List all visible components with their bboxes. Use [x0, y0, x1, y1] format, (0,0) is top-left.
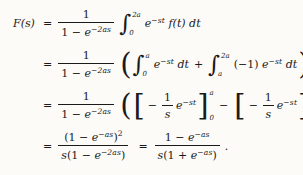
den-exponent: −2as	[91, 66, 111, 75]
equals-sign-5: =	[138, 140, 147, 153]
lower-limit: 0	[129, 29, 141, 37]
fraction-denominator: 1 − e−2as	[58, 104, 114, 121]
equals-sign-2: =	[43, 58, 52, 71]
inner-denominator: s	[162, 105, 173, 121]
den-exponent: −2as	[91, 107, 111, 116]
den-pre: 1 −	[61, 108, 84, 121]
dt: dt	[174, 58, 189, 71]
inner-numerator: 1	[162, 91, 173, 105]
den-exponent: −2as	[91, 25, 111, 34]
num-pre: (1 −	[64, 131, 92, 144]
equation-block: F(s) = 1 1 − e−2as ∫ 2a0 e−st f(t) dt = …	[0, 0, 303, 167]
fraction-numerator: 1	[58, 8, 114, 22]
upper-limit: a	[210, 89, 214, 97]
result-fraction-left: (1 − e−as)2 s(1 − e−2as)	[58, 131, 128, 162]
dt: dt	[282, 58, 297, 71]
den-pre: (1 +	[163, 149, 191, 162]
integral-limits: 2a0	[132, 11, 141, 37]
evaluation-bracket-1: [ − 1 s e−st ] a0	[132, 89, 214, 122]
e-exponent: −st	[283, 98, 297, 107]
inner-denominator: s	[263, 105, 274, 121]
fraction-denominator: s(1 − e−2as)	[58, 145, 128, 162]
minus-sign: −	[249, 99, 258, 112]
e-exponent: −st	[269, 57, 283, 66]
one-over-s-fraction: 1 s	[263, 91, 274, 121]
den-close-paren: )	[212, 149, 216, 162]
left-bracket: [	[133, 91, 144, 120]
den-e-base: e	[94, 149, 101, 162]
den-e-base: e	[84, 26, 91, 39]
open-paren: (	[120, 91, 131, 120]
final-period: .	[225, 140, 229, 153]
fraction-numerator: 1	[58, 49, 114, 63]
den-e-base: e	[84, 67, 91, 80]
e-exponent: −st	[151, 16, 165, 25]
integral-a-to-2a: ∫ 2aa	[208, 52, 232, 78]
fraction-numerator: 1 − e−as	[155, 131, 220, 145]
den-pre: 1 −	[61, 67, 84, 80]
minus-one-factor: (−1)	[234, 58, 262, 71]
equals-sign-4: =	[43, 140, 52, 153]
den-pre: 1 −	[61, 26, 84, 39]
equation-line-4: = (1 − e−as)2 s(1 − e−2as) = 1 − e−as s(…	[13, 126, 303, 167]
e-base: e	[262, 58, 269, 71]
fraction-numerator: (1 − e−as)2	[58, 131, 128, 145]
integrand-term: e−st f(t) dt	[145, 17, 201, 30]
open-paren: (	[120, 50, 131, 79]
exponential-term: e−st	[277, 99, 297, 112]
plus-sign: +	[194, 58, 203, 71]
e-exponent: −st	[160, 57, 174, 66]
result-fraction-right: 1 − e−as s(1 + e−as)	[155, 131, 220, 162]
e-base: e	[176, 99, 183, 112]
integral-0-to-a: ∫ a0	[132, 52, 151, 78]
minus-sign-between-brackets: −	[219, 99, 228, 112]
integrand-tail: f(t) dt	[165, 17, 201, 30]
fraction-numerator: 1	[58, 90, 114, 104]
den-exponent: −as	[197, 148, 212, 157]
fraction-denominator: 1 − e−2as	[58, 22, 114, 39]
inner-numerator: 1	[263, 91, 274, 105]
exponential-term: e−st	[176, 99, 196, 112]
equals-sign-3: =	[43, 99, 52, 112]
equation-line-2: = 1 1 − e−2as ( ∫ a0 e−st dt + ∫ 2aa (−1…	[13, 44, 303, 85]
upper-limit: 2a	[132, 11, 141, 19]
minus-sign: −	[148, 99, 157, 112]
e-exponent: −st	[183, 98, 197, 107]
integral-0-to-2a: ∫ 2a0	[119, 11, 143, 37]
den-pre: (1 −	[67, 149, 95, 162]
equation-line-1: F(s) = 1 1 − e−2as ∫ 2a0 e−st f(t) dt	[13, 3, 303, 44]
lower-limit: 0	[210, 114, 214, 122]
square-power: 2	[118, 129, 123, 138]
right-bracket: ]	[298, 91, 303, 120]
coefficient-fraction-1: 1 1 − e−2as	[58, 8, 114, 39]
coefficient-fraction-3: 1 1 − e−2as	[58, 90, 114, 121]
integrand-term-1: e−st dt	[154, 58, 189, 71]
coefficient-fraction-2: 1 1 − e−2as	[58, 49, 114, 80]
num-exponent: −as	[98, 130, 113, 139]
num-pre: 1 −	[165, 131, 188, 144]
left-bracket: [	[234, 91, 245, 120]
equals-sign-1: =	[43, 17, 52, 30]
one-over-s-fraction: 1 s	[162, 91, 173, 121]
integral-limits: a0	[145, 52, 149, 78]
fraction-denominator: s(1 + e−as)	[155, 145, 220, 162]
evaluation-bracket-2: [ − 1 s e−st ] 2aa	[233, 89, 303, 122]
integral-limits: 2aa	[221, 52, 230, 78]
upper-limit: a	[145, 52, 149, 60]
den-e-base: e	[84, 108, 91, 121]
lower-limit: 0	[142, 70, 149, 78]
integrand-term-2: (−1) e−st dt	[234, 58, 298, 71]
num-exponent: −as	[194, 130, 209, 139]
close-paren: )	[298, 50, 303, 79]
equation-line-3: = 1 1 − e−2as ( [ − 1 s e−st ] a0 − [ − …	[13, 85, 303, 126]
fraction-denominator: 1 − e−2as	[58, 63, 114, 80]
den-close-paren: )	[121, 149, 125, 162]
function-lhs: F(s)	[13, 17, 43, 30]
den-exponent: −2as	[101, 148, 121, 157]
right-bracket: ]	[197, 91, 208, 120]
upper-limit: 2a	[221, 52, 230, 60]
lower-limit: a	[218, 70, 230, 78]
bracket-limits: a0	[210, 89, 214, 122]
